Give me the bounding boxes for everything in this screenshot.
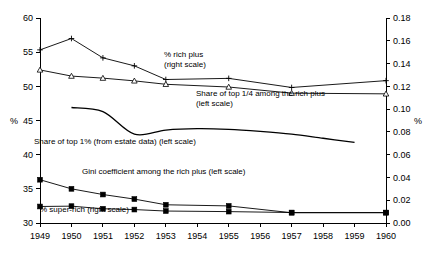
data-point-marker: [384, 210, 389, 215]
data-point-marker: [38, 177, 43, 182]
y-tick-label-left: 35: [23, 184, 33, 194]
data-point-marker: [383, 78, 389, 84]
y-tick-label-right: 0.18: [393, 13, 411, 23]
y-tick-label-left: 30: [23, 218, 33, 228]
data-point-marker: [69, 36, 75, 42]
x-tick-label: 1951: [93, 231, 113, 241]
y-tick-label-right: 0.14: [393, 59, 411, 69]
x-tick-label: 1952: [124, 231, 144, 241]
data-point-marker: [69, 186, 74, 191]
y-tick-label-right: 0.10: [393, 104, 411, 114]
annotation-top-quarter: Share of top 1/4 among the rich plus: [196, 89, 325, 98]
x-tick-label: 1959: [345, 231, 365, 241]
data-point-marker: [163, 209, 168, 214]
x-tick-label: 1956: [250, 231, 270, 241]
data-point-marker: [163, 202, 168, 207]
y-tick-label-right: 0.02: [393, 195, 411, 205]
y-tick-label-left: 50: [23, 82, 33, 92]
y-tick-label-right: 0.00: [393, 218, 411, 228]
x-tick-label: 1953: [156, 231, 176, 241]
y-tick-label-left: 60: [23, 13, 33, 23]
annotation-gini: Gini coefficient among the rich plus (le…: [82, 167, 246, 176]
y-tick-label-right: 0.06: [393, 150, 411, 160]
chart-container: 303540455055600.000.020.040.060.080.100.…: [0, 0, 436, 257]
annotation-rich-plus: % rich plus: [164, 50, 203, 59]
y-tick-label-right: 0.16: [393, 36, 411, 46]
data-point-marker: [37, 67, 43, 72]
data-point-marker: [289, 210, 294, 215]
y-tick-label-left: 40: [23, 150, 33, 160]
x-tick-label: 1955: [219, 231, 239, 241]
x-tick-label: 1957: [282, 231, 302, 241]
data-point-marker: [226, 209, 231, 214]
data-point-marker: [100, 55, 106, 61]
annotation-rich-plus: (right scale): [164, 60, 206, 69]
annotation-super-rich: % super-rich (right scale): [40, 205, 129, 214]
data-point-marker: [226, 76, 232, 82]
y-tick-label-left: 55: [23, 47, 33, 57]
y-axis-title-left: %: [10, 116, 18, 126]
data-point-marker: [132, 207, 137, 212]
chart-plot: 303540455055600.000.020.040.060.080.100.…: [0, 0, 436, 257]
y-tick-label-right: 0.04: [393, 173, 411, 183]
x-tick-label: 1958: [313, 231, 333, 241]
series-line: [40, 39, 386, 88]
annotation-top-quarter: (left scale): [196, 99, 233, 108]
data-point-marker: [101, 192, 106, 197]
data-point-marker: [132, 197, 137, 202]
data-point-marker: [132, 63, 138, 69]
y-tick-label-right: 0.08: [393, 127, 411, 137]
x-tick-label: 1960: [376, 231, 396, 241]
y-axis-title-right: %: [414, 116, 422, 126]
annotation-top-one-percent: Share of top 1% (from estate data) (left…: [34, 137, 196, 146]
y-tick-label-right: 0.12: [393, 82, 411, 92]
series-0: [40, 39, 386, 88]
x-tick-label: 1954: [187, 231, 207, 241]
x-tick-label: 1949: [30, 231, 50, 241]
data-point-marker: [226, 204, 231, 209]
y-tick-label-left: 45: [23, 116, 33, 126]
x-tick-label: 1950: [61, 231, 81, 241]
